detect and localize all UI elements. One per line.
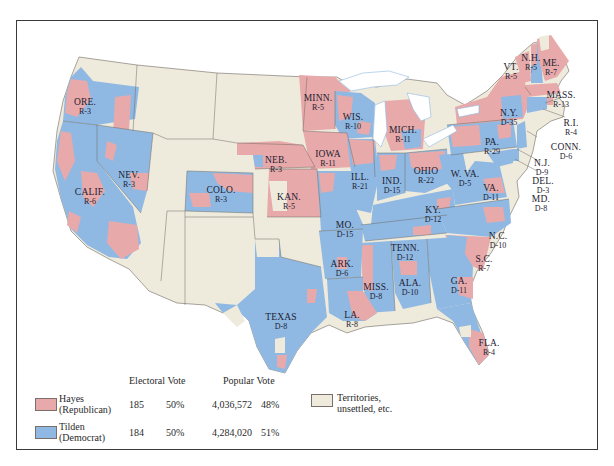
state-label-kan: KAN.R-5 bbox=[277, 193, 301, 211]
state-label-nj: N.J.D-9 bbox=[534, 159, 550, 177]
legend-header-popular: Popular Vote bbox=[223, 375, 275, 386]
legend-swatch-territory bbox=[311, 394, 333, 407]
state-label-fla: FLA.R-4 bbox=[478, 339, 499, 357]
legend-territory-line-2: unsettled, etc. bbox=[337, 403, 392, 414]
state-label-ny: N.Y.D-35 bbox=[500, 109, 518, 127]
state-label-ark: ARK.D-6 bbox=[330, 260, 353, 278]
legend-party-name: Hayes bbox=[59, 393, 84, 404]
state-label-md: MD.D-8 bbox=[532, 195, 550, 213]
state-label-va: VA.D-11 bbox=[483, 184, 499, 202]
legend-pop-democrat: 4,284,020 bbox=[212, 427, 252, 438]
state-label-miss: MISS.D-8 bbox=[363, 283, 389, 301]
legend-swatch-democrat bbox=[35, 426, 57, 439]
state-label-mass: MASS.R-13 bbox=[546, 91, 575, 109]
missouri-rep bbox=[319, 173, 335, 193]
legend-header-electoral: Electoral Vote bbox=[129, 375, 186, 386]
state-label-ri: R.I.R-4 bbox=[563, 119, 578, 137]
state-label-ind: IND.D-15 bbox=[382, 177, 402, 195]
florida-unsettled bbox=[459, 325, 471, 337]
state-label-nev: NEV.R-3 bbox=[118, 171, 139, 189]
delaware bbox=[513, 149, 519, 161]
legend-ev-republican: 185 bbox=[129, 399, 144, 410]
legend-territory-label: Territories, unsettled, etc. bbox=[337, 392, 392, 414]
state-label-ill: ILL.R-21 bbox=[351, 173, 369, 191]
state-label-vt: VT.R-5 bbox=[504, 63, 519, 81]
state-label-del: DEL.D-3 bbox=[532, 177, 554, 195]
legend-swatch-republican bbox=[35, 398, 57, 411]
state-label-ky: KY.D-12 bbox=[425, 206, 441, 224]
state-label-calif: CALIF.R-6 bbox=[75, 188, 105, 206]
state-label-ala: ALA.D-10 bbox=[399, 279, 422, 297]
indiana-rep bbox=[379, 155, 397, 171]
legend-ev-democrat: 184 bbox=[129, 427, 144, 438]
legend-ev-pct-democrat: 50% bbox=[166, 427, 184, 438]
alabama-rep bbox=[399, 261, 417, 275]
legend-party-republican: Hayes (Republican) bbox=[59, 393, 111, 415]
state-label-colo: COLO.R-3 bbox=[206, 186, 235, 204]
state-label-neb: NEB.R-3 bbox=[265, 156, 287, 174]
illinois-rep bbox=[349, 139, 375, 165]
state-label-la: LA.R-8 bbox=[344, 311, 360, 329]
legend-party-democrat: Tilden (Democrat) bbox=[59, 421, 105, 443]
legend-ev-pct-republican: 50% bbox=[166, 399, 184, 410]
legend-party-name: Tilden bbox=[59, 421, 85, 432]
state-label-pa: PA.R-29 bbox=[484, 138, 500, 156]
legend-pop-pct-republican: 48% bbox=[261, 399, 279, 410]
state-label-texas: TEXASD-8 bbox=[265, 313, 297, 331]
state-label-mich: MICH.R-11 bbox=[389, 126, 417, 144]
state-label-ohio: OHIOR-22 bbox=[414, 167, 439, 185]
state-label-wva: W. VA.D-5 bbox=[451, 170, 480, 188]
election-map-1876 bbox=[17, 21, 597, 449]
state-label-minn: MINN.R-5 bbox=[304, 94, 333, 112]
map-frame: ORE.R-3 CALIF.R-6 NEV.R-3 COLO.R-3 NEB.R… bbox=[16, 20, 598, 450]
state-label-ga: GA.D-11 bbox=[451, 277, 468, 295]
state-label-me: ME.R-7 bbox=[542, 59, 559, 77]
state-label-nh: N.H.R-5 bbox=[521, 54, 540, 72]
legend-territory-line-1: Territories, bbox=[337, 392, 381, 403]
state-label-sc: S.C.R-7 bbox=[475, 255, 492, 273]
state-label-nc: N.C.D-10 bbox=[489, 232, 508, 250]
state-label-tenn: TENN.D-12 bbox=[391, 244, 420, 262]
state-label-iowa: IOWAR-11 bbox=[315, 150, 341, 168]
legend-party-sub: (Republican) bbox=[59, 404, 111, 415]
legend-party-sub: (Democrat) bbox=[59, 432, 105, 443]
state-label-conn: CONN.D-6 bbox=[551, 143, 581, 161]
state-label-mo: MO.D-15 bbox=[336, 221, 354, 239]
legend-pop-pct-democrat: 51% bbox=[261, 427, 279, 438]
state-label-wis: WIS.R-10 bbox=[343, 113, 364, 131]
state-label-ore: ORE.R-3 bbox=[74, 98, 96, 116]
legend-pop-republican: 4,036,572 bbox=[212, 399, 252, 410]
